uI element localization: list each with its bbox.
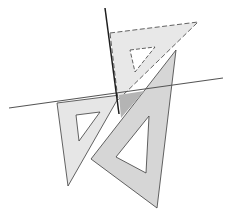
diagram-canvas <box>0 0 228 215</box>
set-squares-diagram <box>0 0 228 215</box>
